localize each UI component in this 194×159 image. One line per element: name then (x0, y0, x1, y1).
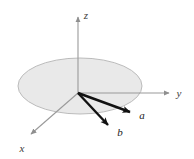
vector-b-label: b (117, 126, 123, 138)
diagram-canvas: z y x a b (0, 0, 194, 159)
vector-diagram-figure: z y x a b (0, 0, 194, 159)
vector-a-label: a (139, 109, 145, 121)
z-axis-label: z (83, 9, 89, 21)
y-axis-label: y (176, 87, 182, 99)
x-axis-label: x (19, 142, 25, 154)
xy-plane-disk (18, 58, 142, 114)
